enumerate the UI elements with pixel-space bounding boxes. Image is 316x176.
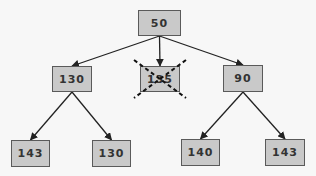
tree-diagram: 50 130 135 90 143 130 140 143 xyxy=(0,0,316,176)
pruned-cross-layer xyxy=(0,0,316,176)
